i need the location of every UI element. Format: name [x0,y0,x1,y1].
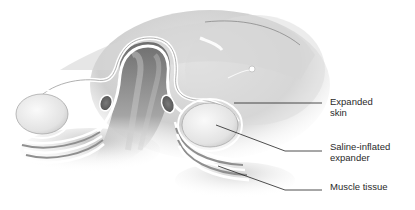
label-expanded-skin-line2: skin [330,107,373,118]
figure-canvas: Expanded skin Saline-inflated expander M… [0,0,415,210]
label-saline-inflated-expander: Saline-inflated expander [330,141,390,163]
label-saline-line1: Saline-inflated [330,141,390,152]
label-expanded-skin-line1: Expanded [330,96,373,107]
label-saline-line2: expander [330,152,390,163]
label-muscle-tissue: Muscle tissue [330,181,388,192]
label-muscle-line1: Muscle tissue [330,181,388,192]
label-expanded-skin: Expanded skin [330,96,373,118]
